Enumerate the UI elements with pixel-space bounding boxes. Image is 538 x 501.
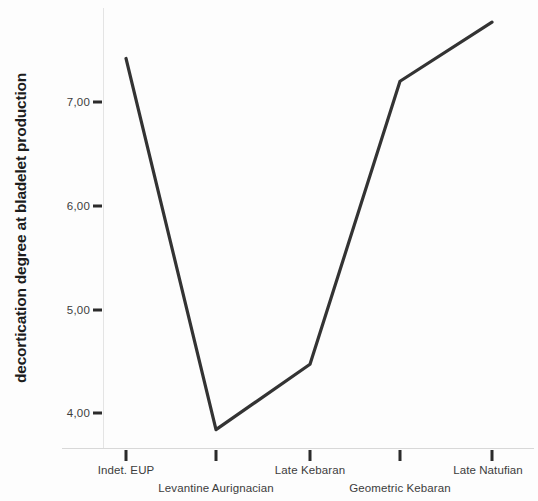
x-tick-label-levantine-aurignacian: Levantine Aurignacian [158, 482, 273, 494]
y-tick-dash-7 [93, 101, 102, 104]
y-tick-label-5: 5,00 [44, 304, 90, 316]
y-tick-dash-6 [93, 205, 102, 208]
line-chart: decortication degree at bladelet product… [0, 0, 538, 501]
x-tick-label-late-natufian: Late Natufian [453, 464, 523, 476]
y-axis-title: decortication degree at bladelet product… [0, 0, 42, 455]
y-tick-label-6: 6,00 [44, 200, 90, 212]
y-tick-label-4: 4,00 [44, 407, 90, 419]
y-tick-label-7: 7,00 [44, 96, 90, 108]
x-tick-dash-1 [125, 450, 128, 461]
x-tick-dash-3 [309, 450, 312, 461]
y-axis-line [103, 8, 104, 448]
y-axis-title-text: decortication degree at bladelet product… [12, 72, 30, 382]
series-polyline [126, 22, 492, 429]
x-tick-dash-4 [399, 450, 402, 461]
x-axis-line [62, 448, 534, 449]
series-line-plot [0, 0, 538, 501]
x-tick-label-indet-eup: Indet. EUP [98, 464, 155, 476]
x-tick-dash-2 [215, 450, 218, 461]
x-tick-label-geometric-kebaran: Geometric Kebaran [349, 482, 450, 494]
x-tick-label-late-kebaran: Late Kebaran [275, 464, 345, 476]
y-tick-dash-4 [93, 412, 102, 415]
y-tick-dash-5 [93, 309, 102, 312]
x-tick-dash-5 [491, 450, 494, 461]
